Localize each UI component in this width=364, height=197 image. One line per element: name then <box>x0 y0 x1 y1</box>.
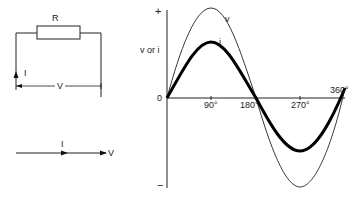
current-arrow-icon <box>14 71 19 78</box>
current-curve <box>167 42 345 151</box>
curve-i-label: i <box>219 38 221 47</box>
circuit-voltage-label: V <box>55 82 65 91</box>
diagram-canvas <box>0 0 364 197</box>
resistor-label: R <box>52 14 59 23</box>
arrow-left-icon <box>16 84 22 88</box>
tick-270: 270° <box>291 101 310 110</box>
origin-label: 0 <box>157 94 162 103</box>
circuit-current-label: I <box>24 69 27 78</box>
tick-360: 360° <box>330 86 349 95</box>
y-axis-label: v or i <box>140 46 160 55</box>
current-phasor-arrow-icon <box>61 151 68 156</box>
curve-v-label: v <box>225 15 230 24</box>
phasor-diagram <box>16 151 107 156</box>
phasor-voltage-label: V <box>108 149 114 158</box>
phasor-current-label: I <box>61 140 64 149</box>
y-minus-label: − <box>157 180 163 191</box>
voltage-phasor-arrow-icon <box>100 151 107 156</box>
resistor <box>37 26 80 39</box>
tick-90: 90° <box>204 101 218 110</box>
tick-180: 180° <box>240 101 259 110</box>
y-plus-label: + <box>155 6 161 17</box>
